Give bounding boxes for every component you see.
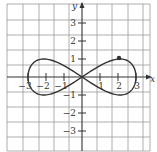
x-axis-label: x: [150, 74, 155, 84]
y-tick-label: −2: [63, 108, 76, 118]
y-tick-label: −3: [63, 126, 77, 136]
y-tick-label: −1: [63, 90, 76, 100]
y-axis-arrow-icon: [80, 2, 85, 8]
y-tick-label: 1: [70, 54, 76, 64]
axes: [7, 2, 152, 151]
x-tick-label: 2: [116, 81, 122, 91]
chart: −3−2−1123321−1−2−3 x y: [0, 0, 157, 152]
x-tick-label: −2: [36, 81, 49, 91]
annotation-points: [117, 56, 121, 60]
highlighted-point: [117, 56, 121, 60]
y-tick-label: 2: [70, 36, 76, 46]
y-tick-label: 3: [70, 18, 76, 28]
y-axis-label: y: [71, 1, 78, 11]
